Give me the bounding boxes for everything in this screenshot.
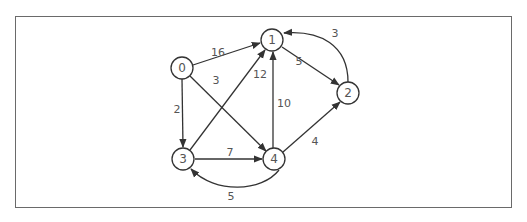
weight-0-4: 3 (213, 74, 220, 87)
svg-text:2: 2 (344, 86, 352, 100)
edge-2-1 (284, 33, 348, 82)
weight-0-3: 2 (174, 103, 181, 116)
node-3: 3 (172, 148, 194, 170)
edge-0-4 (190, 76, 266, 151)
weight-0-1: 16 (211, 46, 225, 59)
weight-4-1: 10 (277, 97, 291, 110)
edge-1-2 (282, 47, 339, 85)
weight-3-1: 12 (253, 68, 267, 81)
node-4: 4 (263, 148, 285, 170)
weight-1-2: 5 (296, 55, 303, 68)
edge-0-3 (182, 79, 183, 147)
edge-0-1 (193, 43, 260, 65)
graph-canvas: 0 1 2 3 4 16 3 2 5 3 12 7 10 4 5 (0, 0, 527, 222)
svg-text:4: 4 (270, 152, 278, 166)
node-1: 1 (261, 29, 283, 51)
weight-4-3: 5 (228, 190, 235, 203)
node-2: 2 (337, 82, 359, 104)
svg-text:3: 3 (179, 152, 187, 166)
svg-text:1: 1 (268, 33, 276, 47)
edge-4-3 (191, 169, 279, 187)
node-0: 0 (171, 57, 193, 79)
edge-3-1 (190, 50, 265, 150)
weight-3-4: 7 (227, 146, 234, 159)
svg-text:0: 0 (178, 61, 186, 75)
weight-2-1: 3 (332, 27, 339, 40)
weight-4-2: 4 (312, 135, 319, 148)
